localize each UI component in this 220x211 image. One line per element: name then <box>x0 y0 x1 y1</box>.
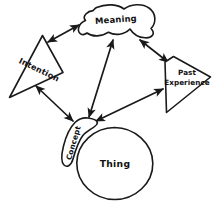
node-meaning[interactable]: Meaning <box>78 5 154 38</box>
diagram-canvas: Thing Meaning Intention Past Experience … <box>0 0 220 211</box>
node-intention[interactable]: Intention <box>10 36 64 98</box>
link-meaning-concept <box>89 40 113 117</box>
link-past-experience-concept <box>96 89 163 121</box>
node-past-experience[interactable]: Past Experience <box>164 57 210 113</box>
past-experience-label-line1: Past <box>178 68 197 77</box>
link-meaning-past-experience <box>140 40 168 62</box>
diagram-svg: Thing Meaning Intention Past Experience … <box>0 0 220 211</box>
thing-label: Thing <box>100 158 131 169</box>
past-experience-label-line2: Experience <box>164 78 210 87</box>
node-thing[interactable]: Thing <box>77 128 153 200</box>
link-intention-meaning <box>48 25 79 42</box>
link-intention-concept <box>36 86 73 121</box>
